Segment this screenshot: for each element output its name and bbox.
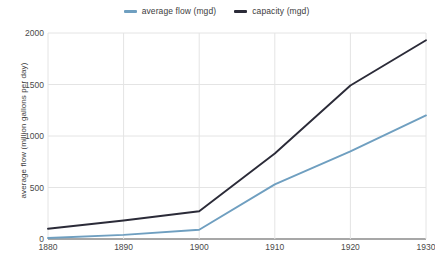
legend-swatch-average-flow <box>124 10 137 13</box>
y-tick-label: 500 <box>2 183 44 193</box>
legend-label-capacity: capacity (mgd) <box>252 6 309 16</box>
legend-label-average-flow: average flow (mgd) <box>142 6 217 16</box>
x-tick-label: 1920 <box>341 242 360 252</box>
x-tick-label: 1880 <box>39 242 58 252</box>
chart-legend: average flow (mgd) capacity (mgd) <box>0 6 433 16</box>
x-axis-ticks: 188018901900191019201930 <box>48 242 426 258</box>
y-tick-label: 2000 <box>2 28 44 38</box>
x-tick-label: 1930 <box>417 242 435 252</box>
x-tick-label: 1890 <box>114 242 133 252</box>
series-lines <box>48 40 426 238</box>
legend-item-average-flow: average flow (mgd) <box>124 6 217 16</box>
y-tick-label: 1000 <box>2 131 44 141</box>
y-tick-label: 1500 <box>2 80 44 90</box>
legend-swatch-capacity <box>234 10 247 13</box>
legend-item-capacity: capacity (mgd) <box>234 6 309 16</box>
x-tick-label: 1910 <box>265 242 284 252</box>
y-axis-ticks: 0500100015002000 <box>0 33 44 239</box>
plot-area <box>48 33 426 239</box>
series-line <box>48 115 426 238</box>
x-tick-label: 1900 <box>190 242 209 252</box>
series-line <box>48 40 426 228</box>
plot-svg <box>48 33 426 239</box>
